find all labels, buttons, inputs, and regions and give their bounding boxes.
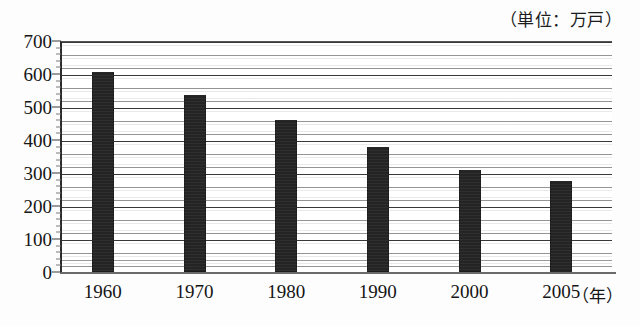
plot-area — [60, 41, 612, 273]
y-minor-tick — [56, 199, 61, 200]
y-minor-tick — [56, 179, 61, 180]
y-minor-tick — [56, 258, 61, 259]
y-major-tick — [52, 140, 61, 141]
bar — [92, 72, 114, 272]
y-minor-tick — [56, 100, 61, 101]
y-minor-tick — [56, 113, 61, 114]
y-major-tick — [52, 74, 61, 75]
y-major-tick — [52, 41, 61, 42]
x-tick-label: 2000 — [451, 281, 489, 303]
y-minor-tick — [56, 80, 61, 81]
y-tick-label: 600 — [24, 65, 53, 84]
y-minor-tick — [56, 225, 61, 226]
bar — [459, 170, 481, 272]
y-major-tick — [52, 239, 61, 240]
y-minor-tick — [56, 159, 61, 160]
x-axis-line — [60, 272, 616, 274]
y-minor-tick — [56, 126, 61, 127]
y-major-tick — [52, 272, 61, 273]
x-tick-label: 1970 — [176, 281, 214, 303]
gridlines-minor — [62, 42, 612, 273]
unit-caption: （単位：万戸） — [500, 6, 623, 31]
y-minor-tick — [56, 60, 61, 61]
scan-texture — [62, 42, 612, 273]
y-minor-tick — [56, 186, 61, 187]
y-minor-tick — [56, 252, 61, 253]
y-tick-label: 700 — [24, 32, 53, 51]
x-tick-label: 1990 — [359, 281, 397, 303]
y-minor-tick — [56, 87, 61, 88]
x-axis-unit-label: （年） — [572, 282, 623, 307]
y-minor-tick — [56, 67, 61, 68]
y-axis-labels: 0100200300400500600700 — [0, 0, 52, 326]
y-major-tick — [52, 107, 61, 108]
y-tick-label: 0 — [43, 263, 53, 282]
y-minor-tick — [56, 245, 61, 246]
y-minor-tick — [56, 47, 61, 48]
y-minor-tick — [56, 133, 61, 134]
bar — [275, 120, 297, 272]
y-minor-tick — [56, 166, 61, 167]
y-minor-tick — [56, 146, 61, 147]
y-minor-tick — [56, 54, 61, 55]
y-minor-tick — [56, 93, 61, 94]
gridlines-major — [62, 42, 612, 273]
y-minor-tick — [56, 232, 61, 233]
bar — [184, 95, 206, 272]
y-minor-tick — [56, 265, 61, 266]
y-tick-label: 100 — [24, 230, 53, 249]
bar — [550, 181, 572, 272]
x-tick-label: 1960 — [84, 281, 122, 303]
y-minor-tick — [56, 192, 61, 193]
y-major-tick — [52, 173, 61, 174]
y-tick-label: 500 — [24, 98, 53, 117]
y-minor-tick — [56, 153, 61, 154]
y-tick-label: 200 — [24, 197, 53, 216]
bar-chart-figure: （単位：万戸） 0100200300400500600700 196019701… — [0, 0, 640, 326]
y-tick-label: 300 — [24, 164, 53, 183]
y-major-tick — [52, 206, 61, 207]
y-tick-label: 400 — [24, 131, 53, 150]
x-tick-label: 1980 — [267, 281, 305, 303]
y-minor-tick — [56, 120, 61, 121]
bar — [367, 147, 389, 272]
y-minor-tick — [56, 212, 61, 213]
y-minor-tick — [56, 219, 61, 220]
